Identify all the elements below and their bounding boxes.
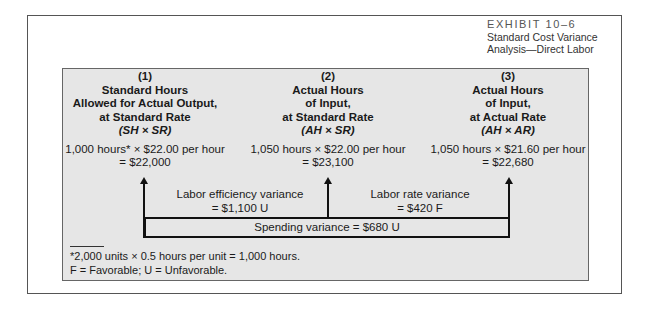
column-result: = $22,680 [418,156,598,170]
footnote-legend: F = Favorable; U = Unfavorable. [70,264,300,278]
column-formula: (AH × SR) [238,124,418,138]
column-calc: 1,000 hours* × $22.00 per hour [55,143,235,157]
column-index: (1) [55,70,235,84]
column-result: = $22,000 [55,156,235,170]
column-formula: (SH × SR) [55,124,235,138]
variance-label: Labor rate variance [350,188,490,202]
exhibit-header: EXHIBIT 10–6 Standard Cost Variance Anal… [487,18,627,55]
column-calc: 1,050 hours × $21.60 per hour [418,143,598,157]
arrow-up-icon [327,183,329,219]
variance-value: = $1,100 U [165,202,315,216]
column-result: = $23,100 [238,156,418,170]
column-actual-hours-standard-rate: (2) Actual Hours of Input, at Standard R… [238,70,418,170]
column-index: (3) [418,70,598,84]
variance-label: Labor efficiency variance [165,188,315,202]
column-calc: 1,050 hours × $22.00 per hour [238,143,418,157]
column-formula: (AH × AR) [418,124,598,138]
exhibit-title-line2: Analysis—Direct Labor [487,43,627,55]
column-index: (2) [238,70,418,84]
labor-rate-variance: Labor rate variance = $420 F [350,188,490,215]
footnotes: *2,000 units × 0.5 hours per unit = 1,00… [70,250,300,277]
column-standard-hours-standard-rate: (1) Standard Hours Allowed for Actual Ou… [55,70,235,170]
variance-value: = $420 F [350,202,490,216]
exhibit-number: EXHIBIT 10–6 [487,18,627,31]
column-heading: at Standard Rate [238,111,418,125]
spending-variance-box: Spending variance = $680 U [144,217,510,238]
column-heading: Actual Hours [418,84,598,98]
footnote-rule [70,246,104,247]
spending-variance-label: Spending variance = $680 U [254,221,399,233]
labor-efficiency-variance: Labor efficiency variance = $1,100 U [165,188,315,215]
column-heading: Allowed for Actual Output, [55,97,235,111]
footnote-units: *2,000 units × 0.5 hours per unit = 1,00… [70,250,300,264]
column-heading: of Input, [238,97,418,111]
exhibit-title-line1: Standard Cost Variance [487,31,627,43]
column-heading: at Actual Rate [418,111,598,125]
column-heading: Standard Hours [55,84,235,98]
column-heading: Actual Hours [238,84,418,98]
column-heading: at Standard Rate [55,111,235,125]
column-actual-hours-actual-rate: (3) Actual Hours of Input, at Actual Rat… [418,70,598,170]
column-heading: of Input, [418,97,598,111]
